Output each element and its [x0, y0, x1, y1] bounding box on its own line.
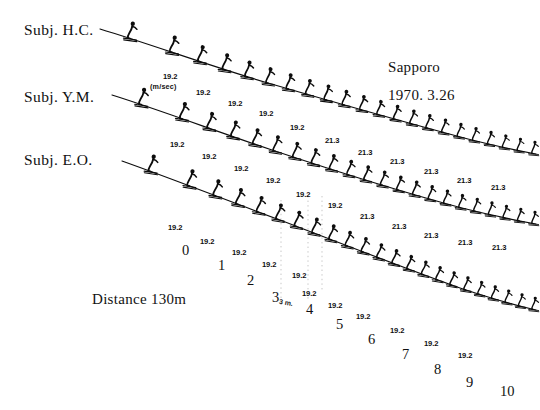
speed-label-hc-10: 21.3 [491, 184, 505, 192]
speed-label-ym-5: 19.2 [328, 202, 342, 210]
speed-label-ym-4: 19.2 [296, 191, 310, 199]
jumper-figures [123, 21, 540, 312]
speed-label-ym-3: 19.2 [266, 177, 280, 185]
date-label: 1970. 3.26 [388, 88, 455, 103]
marker-number-3: 3 [272, 290, 279, 305]
speed-label-eo-0: 19.2 [168, 224, 182, 232]
marker-number-8: 8 [434, 362, 441, 377]
speed-label-ym-2: 19.2 [234, 165, 248, 173]
marker-number-1: 1 [218, 258, 225, 273]
dotted-guide-lines [281, 196, 322, 300]
distance-label: Distance 130m [92, 292, 186, 307]
speed-label-ym-9: 21.3 [458, 239, 472, 247]
speed-label-hc-6: 21.3 [358, 149, 372, 157]
ski-jump-figure: Subj. H.C. Subj. Y.M. Subj. E.O. Sapporo… [0, 0, 540, 410]
speed-label-eo-7: 19.2 [356, 313, 370, 321]
marker-number-6: 6 [368, 332, 375, 347]
marker-number-5: 5 [336, 317, 343, 332]
subject-label-hc: Subj. H.C. [24, 22, 93, 38]
marker-number-2: 2 [247, 273, 254, 288]
speed-label-ym-10: 21.3 [492, 244, 506, 252]
speed-label-eo-9: 19.2 [424, 340, 438, 348]
speed-label-eo-3: 19.2 [262, 261, 276, 269]
trajectory-line-hc [100, 29, 536, 154]
marker-number-7: 7 [402, 347, 409, 362]
marker-number-0: 0 [182, 243, 189, 258]
speed-label-ym-0: 19.2 [170, 141, 184, 149]
speed-label-hc-2: 19.2 [228, 100, 242, 108]
speed-label-eo-4: 19.2 [292, 272, 306, 280]
speed-label-ym-6: 21.3 [360, 213, 374, 221]
speed-label-eo-5: 19.2 [302, 290, 316, 298]
subject-label-eo: Subj. E.O. [24, 152, 93, 168]
marker-number-10: 10 [500, 384, 515, 399]
trajectory-line-ym [112, 95, 536, 224]
place-label: Sapporo [388, 60, 440, 75]
speed-label-ym-1: 19.2 [202, 153, 216, 161]
speed-label-eo-1: 19.2 [200, 238, 214, 246]
speed-label-eo-10: 19.2 [458, 352, 472, 360]
speed-label-hc-9: 21.3 [457, 177, 471, 185]
speed-label-hc-4: 19.2 [290, 124, 304, 132]
speed-label-hc-3: 19.2 [259, 110, 273, 118]
speed-label-hc-8: 21.3 [424, 168, 438, 176]
speed-label-eo-2: 19.2 [232, 249, 246, 257]
speed-unit-label: (m/sec) [150, 83, 177, 90]
marker-number-4: 4 [306, 302, 313, 317]
speed-label-hc-7: 21.3 [390, 158, 404, 166]
speed-label-ym-8: 21.3 [424, 232, 438, 240]
speed-label-hc-1: 19.2 [196, 89, 210, 97]
trajectory-canvas [0, 0, 540, 410]
speed-label-hc-5: 21.3 [325, 137, 339, 145]
subject-label-ym: Subj. Y.M. [24, 89, 94, 105]
speed-label-hc-0: 19.2 [163, 73, 177, 81]
speed-label-ym-7: 21.3 [392, 223, 406, 231]
marker-number-9: 9 [466, 375, 473, 390]
speed-label-eo-6: 19.2 [328, 302, 342, 310]
speed-label-eo-8: 19.2 [390, 327, 404, 335]
